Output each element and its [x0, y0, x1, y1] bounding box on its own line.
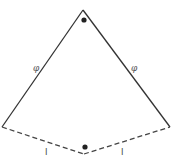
bottom-left-label: l — [45, 147, 48, 157]
kite-diagram: φ φ l l — [0, 0, 177, 166]
bottom-right-dashed-edge — [84, 127, 170, 154]
bottom-dot — [82, 144, 87, 149]
left-solid-edge — [2, 10, 83, 127]
left-edge-label: φ — [33, 63, 40, 73]
bottom-right-label: l — [121, 147, 124, 157]
top-dot — [81, 17, 86, 22]
bottom-left-dashed-edge — [2, 127, 84, 154]
right-edge-label: φ — [131, 63, 138, 73]
right-solid-edge — [83, 10, 170, 127]
